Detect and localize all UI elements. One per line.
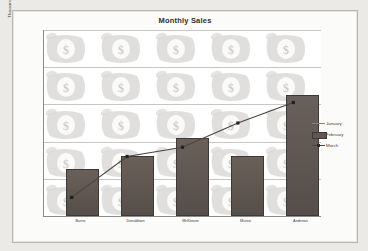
- plot-area: $ 100 90 80: [43, 30, 321, 217]
- legend-item-january[interactable]: January: [312, 118, 344, 129]
- x-label-mckenzie: McKenzie: [182, 219, 199, 223]
- legend-label-march: March: [326, 143, 338, 148]
- line-key-icon: [312, 120, 325, 127]
- x-label-andrews: Andrews: [293, 219, 308, 223]
- y-axis-title: Thousands: [7, 0, 12, 57]
- bar-swatch-key-icon: [312, 131, 325, 138]
- chart-frame[interactable]: Monthly Sales Thousands $: [12, 10, 358, 243]
- chart-title: Monthly Sales: [13, 16, 357, 25]
- x-axis-labels: Burns Donaldson McKenzie Munro Andrews: [43, 219, 320, 231]
- line-marker-key-icon: [312, 142, 325, 149]
- legend-item-march[interactable]: March: [312, 140, 344, 151]
- x-label-burns: Burns: [76, 219, 86, 223]
- legend-label-january: January: [326, 121, 342, 126]
- legend-item-february[interactable]: February: [312, 129, 344, 140]
- chart-legend: January February March: [312, 118, 344, 151]
- x-label-munro: Munro: [240, 219, 251, 223]
- line-series-march: [44, 30, 321, 216]
- legend-label-february: February: [326, 132, 344, 137]
- x-label-donaldson: Donaldson: [126, 219, 144, 223]
- chart-screenshot: Monthly Sales Thousands $: [0, 0, 368, 251]
